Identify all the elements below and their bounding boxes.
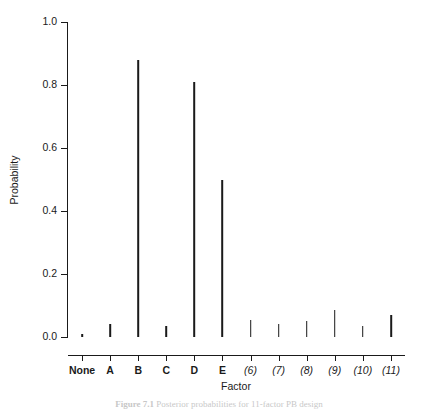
- y-axis-tick-label: 0.4: [42, 204, 57, 216]
- y-axis-tick: 1.0: [61, 22, 67, 23]
- chart-bar: [165, 326, 167, 337]
- y-axis-tick-label: 0.6: [42, 141, 57, 153]
- x-axis-tick-label: (8): [300, 364, 313, 376]
- plot-area: [68, 22, 405, 337]
- x-axis-tick-label: (6): [244, 364, 257, 376]
- y-axis-tick-label: 0.2: [42, 267, 57, 279]
- figure-caption-text: Posterior probabilities for 11-factor PB…: [156, 399, 322, 409]
- x-axis-tick: [251, 355, 252, 361]
- x-axis-tick: [138, 355, 139, 361]
- x-axis-tick-label: (7): [272, 364, 285, 376]
- y-axis-tick: 0.2: [61, 274, 67, 275]
- x-axis-tick-label: (11): [382, 364, 400, 376]
- x-axis-tick: [82, 355, 83, 361]
- y-axis-tick-label: 0.0: [42, 330, 57, 342]
- x-axis-tick-label: (10): [354, 364, 373, 376]
- chart-bar: [306, 321, 308, 337]
- chart-bar: [222, 180, 224, 338]
- chart-bar: [194, 82, 196, 337]
- x-axis-tick: [110, 355, 111, 361]
- chart-bar: [278, 324, 280, 337]
- figure-caption: Figure 7.1 Posterior probabilities for 1…: [115, 399, 322, 409]
- x-axis-tick: [307, 355, 308, 361]
- x-axis-tick: [363, 355, 364, 361]
- y-axis-tick: 0.6: [61, 148, 67, 149]
- chart-bar: [137, 60, 139, 337]
- x-axis-tick: [166, 355, 167, 361]
- y-axis-tick-label: 0.8: [42, 78, 57, 90]
- chart-bar: [250, 320, 252, 337]
- x-axis-tick-label: D: [191, 364, 199, 376]
- figure-caption-label: Figure 7.1: [115, 399, 154, 409]
- x-axis-tick: [391, 355, 392, 361]
- x-axis-tick: [194, 355, 195, 361]
- y-axis-tick-label: 1.0: [42, 15, 57, 27]
- chart-bar: [109, 324, 111, 337]
- chart-bar: [362, 326, 364, 337]
- x-axis-tick-label: A: [106, 364, 114, 376]
- x-axis-tick: [335, 355, 336, 361]
- y-axis-tick: 0.0: [61, 337, 67, 338]
- y-axis-tick: 0.8: [61, 85, 67, 86]
- x-axis-tick: [279, 355, 280, 361]
- y-axis-tick: 0.4: [61, 211, 67, 212]
- chart-bar: [334, 310, 336, 337]
- y-axis-title: Probability: [8, 155, 20, 204]
- x-axis-tick-label: None: [69, 364, 95, 376]
- x-axis-tick-label: (9): [328, 364, 341, 376]
- chart-bar: [81, 334, 83, 337]
- chart-bar: [390, 315, 392, 337]
- x-axis-title: Factor: [221, 380, 251, 392]
- x-axis-tick-label: C: [162, 364, 170, 376]
- x-axis-tick-label: B: [134, 364, 142, 376]
- x-axis-tick-label: E: [219, 364, 226, 376]
- x-axis-line: [68, 355, 405, 356]
- x-axis-tick: [222, 355, 223, 361]
